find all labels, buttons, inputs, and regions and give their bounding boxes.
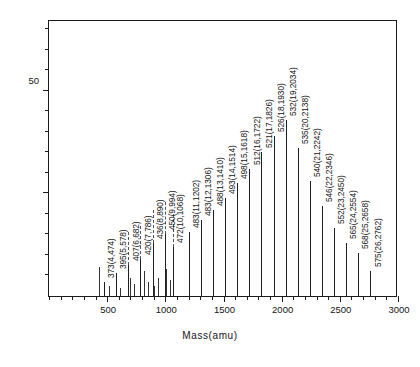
x-tick-minor (317, 296, 318, 300)
peak-label: 535(20,2138) (301, 96, 309, 145)
peak-bar (249, 169, 250, 296)
x-tick-label: 1500 (214, 304, 235, 315)
peak-bar (261, 152, 262, 296)
peak-label: 575(26,2762) (374, 219, 382, 268)
x-tick-minor (49, 296, 50, 300)
x-tick-minor (142, 296, 143, 300)
y-tick-minor (45, 28, 49, 29)
peak-bar (189, 232, 190, 296)
y-tick-major: 50 (43, 192, 49, 193)
peak-bar (225, 198, 226, 296)
peak-label: 552(23,2450) (337, 176, 345, 225)
peak-label: 546(22,2346) (325, 153, 333, 202)
peak-label: 493(14,1514) (228, 145, 236, 194)
peak-bar-minor (148, 282, 149, 296)
x-tick-minor (363, 296, 364, 300)
x-tick-minor (235, 296, 236, 300)
x-tick-minor (84, 296, 85, 300)
x-tick-minor (247, 296, 248, 300)
peak-label: 565(24,2554) (349, 190, 357, 239)
peak-label: 532(19,2034) (289, 67, 297, 116)
peak-bar (237, 183, 238, 296)
peak-bar-minor (170, 280, 171, 296)
y-tick-minor (45, 274, 49, 275)
y-tick-major: 100 (43, 90, 49, 91)
y-tick-minor (45, 151, 49, 152)
x-axis-title: Mass(amu) (0, 330, 420, 341)
y-tick-minor (45, 254, 49, 255)
peak-label: 521(17,1826) (265, 100, 273, 149)
y-tick-minor (45, 233, 49, 234)
peak-bar (213, 210, 214, 296)
peak-bar (286, 120, 287, 296)
label-leader-line (128, 232, 129, 265)
peak-bar (322, 206, 323, 296)
peak-label: 498(15,1618) (240, 131, 248, 180)
x-tick-major: 1000 (165, 296, 166, 302)
y-tick-label: 50 (28, 74, 39, 85)
peak-bar (128, 265, 129, 296)
x-tick-minor (154, 296, 155, 300)
peak-bar-minor (134, 284, 135, 296)
peak-bar (370, 271, 371, 296)
x-tick-minor (328, 296, 329, 300)
y-tick-minor (45, 110, 49, 111)
peak-bar-minor (120, 288, 121, 296)
x-tick-minor (258, 296, 259, 300)
plot-frame: 50100 50010001500200025003000 373(4,474)… (48, 20, 397, 297)
peak-bar (358, 253, 359, 296)
peak-bar-minor (109, 286, 110, 296)
peak-label: 512(16,1722) (253, 116, 261, 165)
peak-bar-minor (166, 269, 167, 296)
peak-bar (298, 148, 299, 296)
x-tick-minor (189, 296, 190, 300)
x-tick-label: 2000 (272, 304, 293, 315)
x-tick-minor (293, 296, 294, 300)
x-tick-minor (177, 296, 178, 300)
x-tick-minor (351, 296, 352, 300)
x-tick-minor (96, 296, 97, 300)
peak-label: 436(8,890) (156, 199, 164, 239)
x-tick-minor (200, 296, 201, 300)
chart-canvas: Relative intensity 50100 500100015002000… (0, 0, 420, 367)
y-tick-minor (45, 49, 49, 50)
peak-label: 420(7,786) (144, 216, 152, 256)
peak-bar-minor (99, 267, 100, 296)
x-tick-minor (305, 296, 306, 300)
peak-bar (201, 220, 202, 296)
y-tick-minor (45, 213, 49, 214)
peak-label: 373(4,474) (107, 238, 115, 278)
peak-label: 526(18,1930) (277, 83, 285, 132)
x-tick-label: 500 (100, 304, 116, 315)
peak-label: 483(11,1202) (192, 180, 200, 228)
x-tick-minor (72, 296, 73, 300)
x-tick-minor (61, 296, 62, 300)
x-tick-minor (375, 296, 376, 300)
peak-label: 540(21,2242) (313, 128, 321, 177)
x-tick-minor (270, 296, 271, 300)
peak-bar-minor (144, 271, 145, 296)
x-tick-minor (212, 296, 213, 300)
x-tick-major: 500 (107, 296, 108, 302)
peak-bar-minor (158, 278, 159, 296)
y-tick-minor (45, 131, 49, 132)
peak-label: 395(5,578) (119, 230, 127, 270)
peak-label: 472(10,1068) (176, 194, 184, 243)
peak-bar (334, 228, 335, 296)
peak-bar (310, 181, 311, 296)
peak-label: 407(6,682) (132, 222, 140, 262)
y-tick-minor (45, 69, 49, 70)
x-tick-label: 1000 (156, 304, 177, 315)
x-tick-label: 2500 (330, 304, 351, 315)
peak-bar (165, 234, 166, 296)
x-tick-minor (119, 296, 120, 300)
peak-bar (173, 247, 174, 296)
x-tick-major: 3000 (398, 296, 399, 302)
x-tick-label: 3000 (388, 304, 409, 315)
x-tick-minor (386, 296, 387, 300)
peak-bar-minor (154, 286, 155, 296)
peak-label: 568(25,2658) (361, 200, 369, 249)
peak-label: 488(13,1410) (216, 157, 224, 206)
peak-bar (104, 282, 105, 296)
peak-bar-minor (130, 278, 131, 296)
